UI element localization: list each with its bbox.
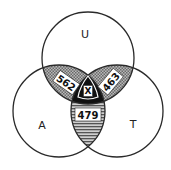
count-u-a-t: X: [85, 86, 92, 96]
set-label-t: T: [129, 118, 137, 131]
count-a-t: 479: [78, 110, 99, 121]
set-label-a: A: [38, 119, 46, 132]
set-label-u: U: [81, 28, 89, 41]
venn-diagram: U A T 562 463 479 X: [0, 0, 171, 170]
